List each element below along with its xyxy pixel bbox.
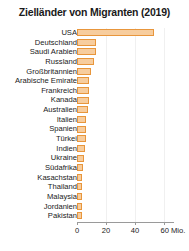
bar	[77, 193, 82, 200]
category-label: Russland	[45, 57, 77, 66]
bar-row: Jordanien	[0, 202, 189, 212]
bar-track	[77, 106, 88, 113]
bar-row: Arabische Emirate	[0, 76, 189, 86]
category-label: Indien	[56, 144, 77, 153]
category-label: Kanada	[51, 95, 77, 104]
bar	[77, 106, 88, 113]
x-axis-tick-label: 20	[102, 226, 110, 235]
bar-row: Russland	[0, 57, 189, 67]
bar-track	[77, 39, 96, 46]
x-axis-tick-label: 60 Mio.	[160, 226, 185, 235]
category-label: Malaysia	[47, 192, 77, 201]
category-label: Deutschland	[35, 38, 77, 47]
chart-title: Zielländer von Migranten (2019)	[0, 6, 189, 18]
bar-track	[77, 174, 82, 181]
category-label: Pakistan	[48, 211, 77, 220]
chart-container: Zielländer von Migranten (2019) USADeuts…	[0, 0, 189, 251]
category-label: Arabische Emirate	[15, 76, 77, 85]
bar	[77, 48, 96, 55]
bar-row: Frankreich	[0, 86, 189, 96]
category-label: Frankreich	[41, 86, 77, 95]
category-label: Italien	[57, 115, 77, 124]
category-label: Südafrika	[45, 163, 77, 172]
bar	[77, 203, 82, 210]
bar	[77, 183, 82, 190]
category-label: Großbritannien	[26, 67, 77, 76]
bar-track	[77, 183, 82, 190]
bar	[77, 155, 84, 162]
category-label: Spanien	[49, 124, 77, 133]
bar-row: USA	[0, 28, 189, 38]
bar	[77, 77, 89, 84]
category-label: Kasachstan	[37, 173, 77, 182]
x-axis-tick-label: 40	[131, 226, 139, 235]
category-label: Ukraine	[51, 153, 77, 162]
bar-row: Thailand	[0, 182, 189, 192]
bar-row: Kanada	[0, 95, 189, 105]
bar	[77, 58, 94, 65]
bar-track	[77, 68, 91, 75]
bar-row: Deutschland	[0, 38, 189, 48]
bar-track	[77, 58, 94, 65]
bar	[77, 29, 154, 36]
bar-row: Italien	[0, 115, 189, 125]
bar	[77, 164, 83, 171]
bar-row: Australien	[0, 105, 189, 115]
bar-track	[77, 77, 89, 84]
bar-row: Spanien	[0, 124, 189, 134]
bar	[77, 97, 89, 104]
bar	[77, 212, 82, 219]
bar-track	[77, 126, 86, 133]
bar-track	[77, 193, 82, 200]
bar	[77, 126, 86, 133]
bar	[77, 145, 85, 152]
x-axis: 0204060 Mio.	[0, 222, 189, 251]
x-axis-line	[77, 222, 174, 223]
bar	[77, 87, 89, 94]
category-label: Australien	[43, 105, 77, 114]
bar-track	[77, 212, 82, 219]
bar-track	[77, 116, 86, 123]
bar-track	[77, 97, 89, 104]
x-axis-tick	[106, 222, 107, 225]
bar-row: Saudi Arabien	[0, 47, 189, 57]
x-axis-tick	[164, 222, 165, 225]
bar-row: Türkei	[0, 134, 189, 144]
bar-track	[77, 48, 96, 55]
bar-track	[77, 145, 85, 152]
category-label: Jordanien	[44, 202, 77, 211]
category-label: Thailand	[48, 182, 77, 191]
bar	[77, 135, 86, 142]
bar-track	[77, 29, 154, 36]
bar-row: Kasachstan	[0, 173, 189, 183]
bar-row: Großbritannien	[0, 67, 189, 77]
x-axis-tick	[135, 222, 136, 225]
bar	[77, 68, 91, 75]
bar-track	[77, 87, 89, 94]
bar-track	[77, 164, 83, 171]
category-label: USA	[61, 28, 77, 37]
category-label: Saudi Arabien	[30, 47, 77, 56]
bar	[77, 174, 82, 181]
bar-row: Malaysia	[0, 192, 189, 202]
bar	[77, 116, 86, 123]
bar	[77, 39, 96, 46]
bar-row: Ukraine	[0, 153, 189, 163]
bar-row: Südafrika	[0, 163, 189, 173]
bar-track	[77, 203, 82, 210]
bar-track	[77, 135, 86, 142]
bar-row: Pakistan	[0, 211, 189, 221]
bar-track	[77, 155, 84, 162]
bar-row: Indien	[0, 144, 189, 154]
bars-area: USADeutschlandSaudi ArabienRusslandGroßb…	[0, 28, 189, 222]
category-label: Türkei	[56, 134, 77, 143]
x-axis-tick-label: 0	[75, 226, 79, 235]
x-axis-tick	[77, 222, 78, 225]
